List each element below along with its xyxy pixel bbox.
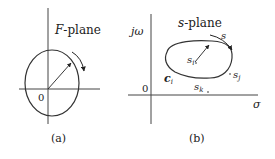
b-y-axis-label: jω <box>128 25 143 38</box>
b-x-axis-label: σ <box>253 98 261 111</box>
a-direction-arrow <box>72 52 84 71</box>
b-point-i <box>195 62 197 64</box>
b-caption: (b) <box>189 132 205 145</box>
b-point-j-label: sj <box>233 69 241 82</box>
a-vector-arrow <box>48 63 71 89</box>
b-direction-label: s <box>221 30 226 41</box>
b-point-i-label: si <box>187 54 194 67</box>
panel-a: F-plane 0 (a) <box>19 8 101 145</box>
a-circle-contour <box>25 50 79 116</box>
b-plane-label: s-plane <box>178 16 222 30</box>
a-caption: (a) <box>51 132 66 145</box>
b-closed-contour <box>166 41 233 79</box>
b-origin-label: 0 <box>142 83 148 94</box>
a-origin-label: 0 <box>38 92 44 103</box>
a-plane-label: F-plane <box>54 23 101 37</box>
b-point-j <box>229 73 231 75</box>
b-point-k-label: sk <box>194 81 203 94</box>
b-point-k <box>207 91 209 93</box>
b-contour-label: ci <box>164 72 173 86</box>
b-vector-arrow <box>195 45 209 62</box>
figure-canvas: F-plane 0 (a) jω s-plane s si sj sk ci 0… <box>0 0 275 159</box>
panel-b: jω s-plane s si sj sk ci 0 σ (b) <box>128 14 261 145</box>
